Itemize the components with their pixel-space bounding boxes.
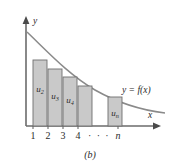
tick-label-2: 2	[46, 130, 51, 141]
function-label: y = f(x)	[121, 85, 151, 96]
bar-u5	[78, 86, 92, 126]
y-axis-label: y	[32, 16, 38, 26]
figure-container: y x u2 u3 u4 un y = f(x) 1 2 3 4 · · · n	[0, 0, 180, 165]
y-axis-arrow-icon	[23, 16, 30, 24]
tick-label-1: 1	[31, 130, 36, 141]
integral-test-figure: y x u2 u3 u4 un y = f(x) 1 2 3 4 · · · n	[0, 0, 180, 165]
tick-label-4: 4	[76, 130, 81, 141]
tick-label-ellipsis: · · ·	[88, 130, 110, 141]
tick-label-3: 3	[61, 130, 66, 141]
figure-caption: (b)	[84, 149, 96, 161]
x-axis-arrow-icon	[153, 123, 161, 130]
tick-label-n: n	[116, 130, 121, 141]
